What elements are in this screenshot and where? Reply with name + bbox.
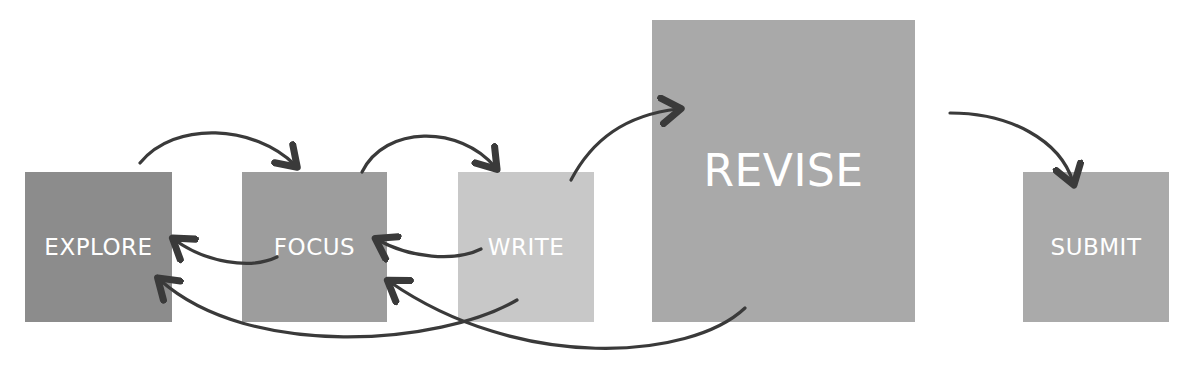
node-focus-label: FOCUS [274,234,355,260]
node-revise: REVISE [652,20,915,322]
node-submit-label: SUBMIT [1051,234,1142,260]
node-submit: SUBMIT [1023,172,1169,322]
arrows-layer [0,0,1189,381]
node-revise-label: REVISE [703,145,863,196]
node-explore-label: EXPLORE [44,234,152,260]
node-write-label: WRITE [488,234,565,260]
node-explore: EXPLORE [25,172,172,322]
node-focus: FOCUS [242,172,387,322]
node-write: WRITE [458,172,594,322]
arrow-focus-to-write [362,136,495,172]
arrow-explore-to-focus [140,133,295,165]
